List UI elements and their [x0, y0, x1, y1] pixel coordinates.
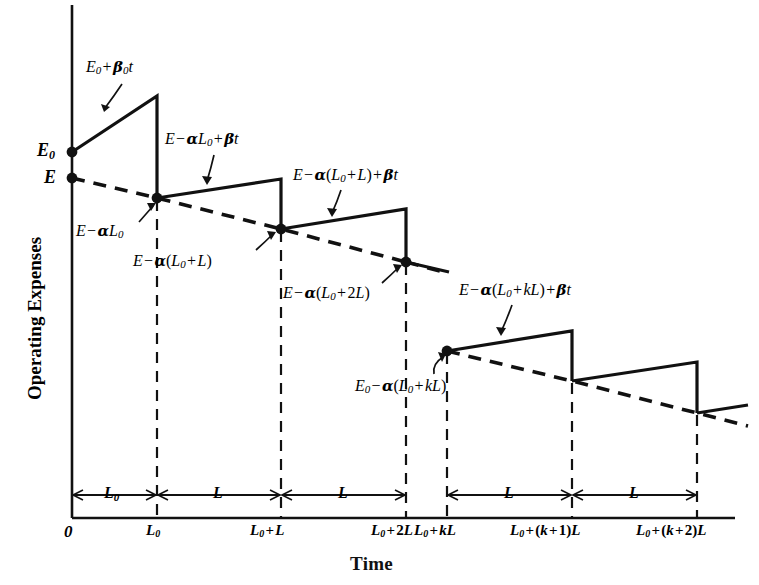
marker-e-minus-al0 [152, 193, 163, 204]
y-label-e0: E0 [37, 140, 55, 163]
sawtooth-ramp-k1 [572, 362, 697, 413]
annotation-ramp-0-formula: E0 + β0t [86, 58, 133, 76]
sawtooth-ramp-2-tail [406, 262, 449, 272]
baseline-trend-line [72, 178, 406, 262]
annotation-point-k-label: E0 − α(L0 + kL) [355, 377, 446, 395]
y-label-e: E [44, 167, 56, 188]
annotation-ramp-k-formula: E − α(L0 + kL) + βt [459, 281, 571, 299]
marker-e [67, 173, 78, 184]
y-axis-title: Operating Expenses [24, 237, 46, 400]
marker-e0-minus-a-l0-plus-kl [442, 346, 453, 357]
annotation-point-1-label: E − αL0 [76, 222, 123, 240]
sawtooth-ramp-k [447, 331, 572, 381]
baseline-trend-line-k [447, 351, 748, 426]
tick-l0-plus-l: L0 + L [250, 522, 284, 539]
tick-l0-plus-k1l: L0 + (k + 1)L [510, 522, 580, 539]
marker-e0 [67, 147, 78, 158]
sawtooth-ramp-0 [72, 96, 157, 198]
figure-canvas: Operating Expenses Time E0 E L0 L L L L … [0, 0, 759, 585]
tick-origin: 0 [64, 522, 73, 542]
tick-l0: L0 [146, 522, 160, 539]
bracket-label-l-1: L [213, 484, 223, 502]
annotation-ramp-2-formula: E − α(L0 + L) + βt [293, 166, 398, 184]
annotation-point-2-label: E − α(L0 + L) [133, 252, 212, 270]
annotation-point-3-label: E − α(L0 + 2L) [283, 284, 370, 302]
tick-l0-plus-kl: L0 + kL [414, 522, 456, 539]
sawtooth-ramp-2 [281, 209, 406, 262]
marker-e-minus-a-l0-plus-2l [401, 257, 412, 268]
sawtooth-ramp-k2 [697, 405, 748, 413]
x-axis-title: Time [350, 553, 393, 575]
bracket-label-l-3: L [504, 484, 514, 502]
bracket-label-l0: L0 [104, 484, 119, 503]
tick-l0-plus-2l: L0 + 2L [371, 522, 413, 539]
bracket-label-l-2: L [338, 484, 348, 502]
sawtooth-ramp-1 [157, 179, 281, 229]
bracket-label-l-4: L [629, 484, 639, 502]
marker-e-minus-a-l0-plus-l [276, 224, 287, 235]
interval-bracket-row [73, 490, 696, 500]
annotation-arrows [101, 84, 512, 374]
tick-l0-plus-k2l: L0 + (k + 2)L [636, 522, 706, 539]
annotation-ramp-1-formula: E − αL0 + βt [165, 130, 239, 148]
